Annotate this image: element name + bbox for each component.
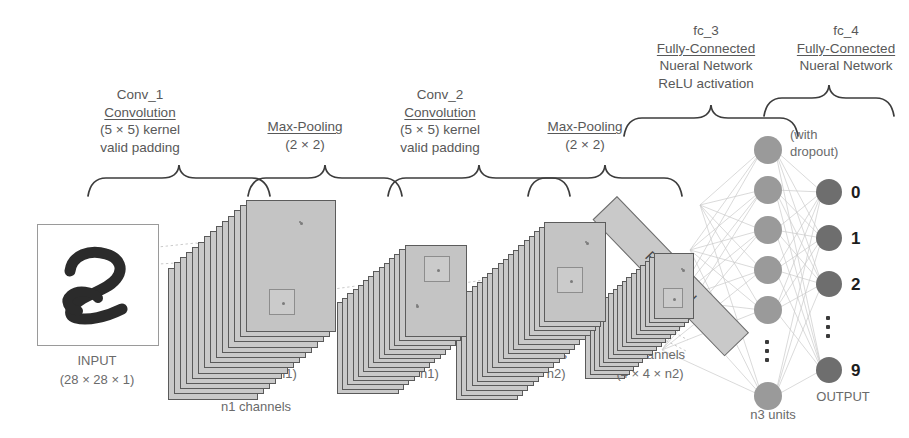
conv1out-line-2: n1 channels: [176, 398, 336, 417]
output-node-0: [816, 179, 842, 205]
input-line-0: INPUT: [17, 352, 177, 371]
kernel-center-dot: [416, 305, 419, 308]
hidden-node-1: [754, 176, 782, 204]
label-input: INPUT (28 × 28 × 1): [17, 352, 177, 390]
hidden-node-4: [754, 296, 782, 324]
kernel-center-dot: [682, 269, 685, 272]
hidden-node-3: [754, 256, 782, 284]
feature-map-front: [405, 245, 467, 337]
output-node-1: [816, 225, 842, 251]
output-node-2: [816, 271, 842, 297]
kernel-center-dot: [673, 298, 676, 301]
feature-map-front: [544, 222, 606, 322]
kernel-center-dot: [437, 269, 440, 272]
output-class-0: 0: [851, 184, 860, 201]
kernel-center-dot: [300, 222, 303, 225]
output-layer-ellipsis: [826, 316, 831, 343]
output-node-last: [816, 357, 842, 383]
hidden-node-2: [754, 216, 782, 244]
output-class-1: 1: [851, 230, 860, 247]
label-output: OUTPUT: [788, 388, 898, 407]
kernel-center-dot: [586, 242, 589, 245]
input-line-1: (28 × 28 × 1): [17, 371, 177, 390]
output-class-9: 9: [851, 362, 860, 379]
label-n3-units: n3 units: [713, 406, 833, 425]
kernel-center-dot: [282, 302, 285, 305]
hidden-layer-ellipsis: [765, 340, 770, 367]
output-class-2: 2: [851, 276, 860, 293]
feature-map-front: [246, 200, 336, 332]
feature-map-front: [654, 253, 694, 319]
hidden-node-0: [754, 136, 782, 164]
